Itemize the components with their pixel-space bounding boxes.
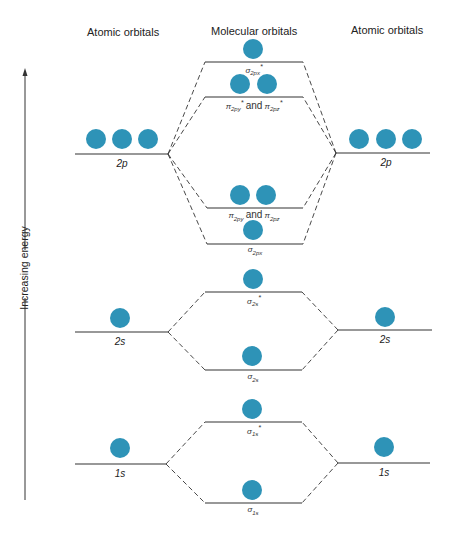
electron-icon: [374, 437, 394, 457]
electron-icon: [243, 220, 263, 240]
mo-label-sigma-1s: σ1s: [247, 505, 258, 516]
electron-icon: [256, 185, 276, 205]
mo-label-sigma-2px: σ2px: [248, 245, 263, 256]
ao-label-right-2p: 2p: [380, 157, 391, 168]
electron-icon: [257, 74, 277, 94]
electron-icon: [138, 129, 158, 149]
ao-label-left-2s: 2s: [115, 336, 126, 347]
mo-label-sigma-2s: σ2s: [247, 372, 258, 383]
electron-icon: [230, 74, 250, 94]
electron-icon: [112, 129, 132, 149]
ao-label-right-2s: 2s: [380, 334, 391, 345]
mo-label-sigma-2px-star: σ2px*: [245, 63, 262, 76]
mo-label-pi-2p: π2py and π2pz: [228, 209, 279, 222]
mo-diagram: [0, 0, 453, 541]
mo-label-sigma-1s-star: σ1s*: [247, 424, 261, 437]
electron-icon: [243, 269, 263, 289]
electron-icon: [375, 307, 395, 327]
ao-label-left-1s: 1s: [115, 468, 126, 479]
mo-label-pi-2p-star: π2py* and π2pz*: [226, 99, 283, 112]
energy-axis-label: Increasing energy: [18, 218, 30, 318]
header-atomic-orbitals-right: Atomic orbitals: [351, 24, 423, 36]
header-atomic-orbitals-left: Atomic orbitals: [87, 26, 159, 38]
electron-icon: [242, 399, 262, 419]
ao-label-right-1s: 1s: [379, 467, 390, 478]
electron-icon: [402, 129, 422, 149]
ao-label-left-2p: 2p: [116, 158, 127, 169]
electron-icon: [86, 129, 106, 149]
header-molecular-orbitals: Molecular orbitals: [211, 25, 297, 37]
electron-icon: [242, 346, 262, 366]
electron-icon: [242, 480, 262, 500]
electron-icon: [376, 129, 396, 149]
electron-icon: [110, 438, 130, 458]
mo-label-sigma-2s-star: σ2s*: [247, 294, 261, 307]
electron-icon: [243, 39, 263, 59]
electron-icon: [110, 308, 130, 328]
electron-icon: [349, 129, 369, 149]
electron-icon: [230, 185, 250, 205]
